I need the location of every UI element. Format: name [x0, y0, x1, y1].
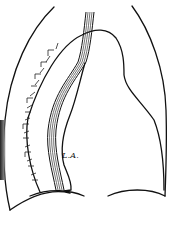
left-heart-border — [27, 118, 40, 192]
right-chest-wall — [132, 6, 166, 196]
left-chest-wall — [4, 7, 54, 210]
tubular-structure — [48, 12, 94, 190]
anatomical-figure: L.A. — [0, 0, 179, 229]
diaphragm-right — [108, 190, 165, 196]
diaphragm-left — [10, 192, 70, 210]
left-atrium-label: L.A. — [62, 151, 79, 160]
diagram-drawing — [0, 0, 179, 229]
page-edge-shadow — [0, 120, 6, 180]
